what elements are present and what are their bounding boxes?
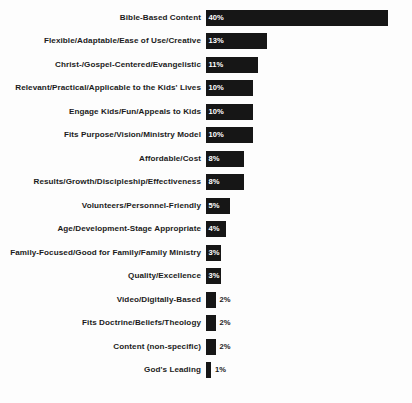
category-label: Volunteers/Personnel-Friendly [0, 202, 206, 210]
bar: 3% [206, 245, 221, 261]
bar-track: 8% [206, 171, 412, 195]
category-label: Bible-Based Content [0, 14, 206, 22]
category-label: Engage Kids/Fun/Appeals to Kids [0, 108, 206, 116]
bar-chart: Bible-Based Content 40% Flexible/Adaptab… [0, 0, 412, 403]
bar-row: Video/Digitally-Based 2% [0, 288, 412, 312]
bar [206, 362, 211, 378]
bar-row: Quality/Excellence 3% [0, 265, 412, 289]
bar-row: Christ-/Gospel-Centered/Evangelistic 11% [0, 53, 412, 77]
bar: 3% [206, 268, 221, 284]
bar-value-label: 1% [215, 366, 226, 374]
bar-value-label: 8% [206, 178, 219, 186]
bar: 10% [206, 104, 253, 120]
bar [206, 315, 216, 331]
bar-row: Flexible/Adaptable/Ease of Use/Creative … [0, 30, 412, 54]
bar-row: Content (non-specific) 2% [0, 335, 412, 359]
bar-row: God's Leading 1% [0, 359, 412, 383]
bar-value-label: 3% [206, 249, 219, 257]
bar-value-label: 3% [206, 272, 219, 280]
bar-value-label: 10% [206, 131, 224, 139]
bar-value-label: 8% [206, 155, 219, 163]
bar-value-label: 2% [220, 343, 231, 351]
bar-value-label: 2% [220, 319, 231, 327]
bar-track: 4% [206, 218, 412, 242]
bar-track: 10% [206, 77, 412, 101]
bar: 10% [206, 80, 253, 96]
bar-track: 3% [206, 241, 412, 265]
bar-value-label: 10% [206, 84, 224, 92]
chart-plot-area: Bible-Based Content 40% Flexible/Adaptab… [0, 6, 412, 382]
bar-row: Fits Doctrine/Beliefs/Theology 2% [0, 312, 412, 336]
category-label: Affordable/Cost [0, 155, 206, 163]
bar-value-label: 13% [206, 37, 224, 45]
bar-track: 10% [206, 100, 412, 124]
bar-track: 8% [206, 147, 412, 171]
category-label: Results/Growth/Discipleship/Effectivenes… [0, 178, 206, 186]
category-label: Family-Focused/Good for Family/Family Mi… [0, 249, 206, 257]
bar: 13% [206, 33, 267, 49]
bar: 4% [206, 221, 226, 237]
category-label: Relevant/Practical/Applicable to the Kid… [0, 84, 206, 92]
bar-value-label: 2% [220, 296, 231, 304]
category-label: Fits Purpose/Vision/Ministry Model [0, 131, 206, 139]
bar-value-label: 40% [206, 14, 224, 22]
bar-track: 3% [206, 265, 412, 289]
bar-row: Volunteers/Personnel-Friendly 5% [0, 194, 412, 218]
bar-row: Engage Kids/Fun/Appeals to Kids 10% [0, 100, 412, 124]
category-label: Christ-/Gospel-Centered/Evangelistic [0, 61, 206, 69]
bar [206, 292, 216, 308]
bar: 8% [206, 151, 244, 167]
bar-track: 2% [206, 288, 412, 312]
category-label: Quality/Excellence [0, 272, 206, 280]
bar-row: Family-Focused/Good for Family/Family Mi… [0, 241, 412, 265]
category-label: God's Leading [0, 366, 206, 374]
bar-value-label: 10% [206, 108, 224, 116]
bar-track: 2% [206, 312, 412, 336]
bar-value-label: 4% [206, 225, 219, 233]
category-label: Content (non-specific) [0, 343, 206, 351]
bar: 5% [206, 198, 230, 214]
bar: 10% [206, 127, 253, 143]
bar [206, 339, 216, 355]
bar: 40% [206, 10, 388, 26]
bar-track: 5% [206, 194, 412, 218]
bar-row: Affordable/Cost 8% [0, 147, 412, 171]
bar-track: 40% [206, 6, 412, 30]
bar-track: 13% [206, 30, 412, 54]
bar-row: Results/Growth/Discipleship/Effectivenes… [0, 171, 412, 195]
bar: 8% [206, 174, 244, 190]
bar-track: 2% [206, 335, 412, 359]
bar-track: 1% [206, 359, 412, 383]
category-label: Fits Doctrine/Beliefs/Theology [0, 319, 206, 327]
category-label: Flexible/Adaptable/Ease of Use/Creative [0, 37, 206, 45]
bar-row: Relevant/Practical/Applicable to the Kid… [0, 77, 412, 101]
bar: 11% [206, 57, 258, 73]
bar-track: 11% [206, 53, 412, 77]
bar-value-label: 5% [206, 202, 219, 210]
category-label: Video/Digitally-Based [0, 296, 206, 304]
bar-track: 10% [206, 124, 412, 148]
bar-row: Age/Development-Stage Appropriate 4% [0, 218, 412, 242]
bar-value-label: 11% [206, 61, 223, 69]
bar-row: Bible-Based Content 40% [0, 6, 412, 30]
category-label: Age/Development-Stage Appropriate [0, 225, 206, 233]
bar-row: Fits Purpose/Vision/Ministry Model 10% [0, 124, 412, 148]
